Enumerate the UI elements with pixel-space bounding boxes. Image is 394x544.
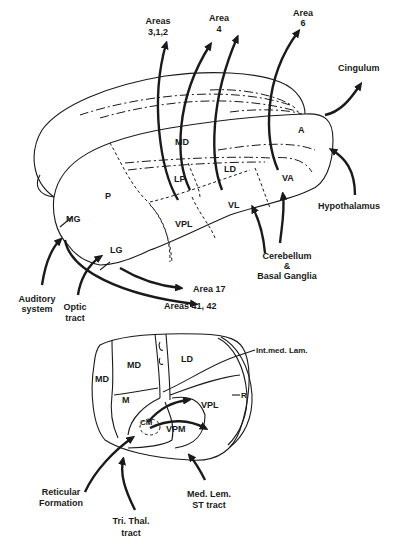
label-auditory-l2: system (21, 304, 52, 314)
nucleus-ld: LD (224, 164, 236, 174)
label-cerebellum-l2: & (284, 261, 291, 271)
nucleus-lg: LG (110, 245, 123, 255)
arrow-area-17 (120, 268, 180, 288)
label-reticular-l1: Reticular (42, 487, 81, 497)
cs-nucleus-cm: CM (140, 418, 153, 427)
arrow-tri-thal (122, 460, 135, 510)
nucleus-vpl: VPL (175, 219, 193, 229)
label-cerebellum-l3: Basal Ganglia (257, 271, 318, 281)
nucleus-va: VA (282, 173, 294, 183)
arrow-area-4 (180, 45, 210, 190)
cross-section-labels: MD MD LD M VPL CM VPM Int.med. Lam. R Re… (39, 346, 308, 538)
thalamus-diagram: MD A LP LD VA P VL VPL MG LG Areas 3,1,2… (0, 0, 394, 544)
cs-nucleus-md-1: MD (127, 360, 141, 370)
label-tri-thal-l2: tract (121, 528, 141, 538)
cs-nucleus-vpm: VPM (166, 424, 186, 434)
cs-nucleus-md-2: MD (95, 374, 109, 384)
label-cerebellum-l1: Cerebellum (262, 251, 311, 261)
label-tri-thal-l1: Tri. Thal. (112, 516, 149, 526)
label-med-lem-l2: ST tract (192, 500, 226, 510)
arrow-areas-4142 (65, 240, 195, 304)
nucleus-vl: VL (228, 200, 240, 210)
cs-nucleus-ld: LD (181, 354, 193, 364)
label-areas-312-l2: 3,1,2 (148, 27, 168, 37)
label-area-6-l2: 6 (300, 18, 305, 28)
label-area-6-l1: Area (293, 8, 314, 18)
label-reticular-l2: Formation (39, 498, 83, 508)
label-int-med-lam: Int.med. Lam. (256, 346, 308, 355)
label-hypothalamus: Hypothalamus (318, 201, 380, 211)
label-area-4-l1: Area (209, 13, 230, 23)
arrow-auditory (42, 240, 60, 285)
label-cingulum: Cingulum (338, 63, 380, 73)
label-area-4-l2: 4 (216, 24, 221, 34)
nucleus-mg: MG (66, 214, 81, 224)
upper-target-labels: Areas 3,1,2 Area 4 Area 6 Cingulum Area … (19, 8, 381, 323)
label-r: R (241, 391, 247, 400)
arrow-hypothalamus (332, 150, 355, 195)
label-med-lem-l1: Med. Lem. (187, 489, 231, 499)
nucleus-a: A (298, 125, 305, 135)
arrow-cerebellum (280, 195, 284, 243)
cs-nucleus-vpl: VPL (201, 400, 219, 410)
nucleus-p: P (105, 191, 111, 201)
label-auditory-l1: Auditory (19, 294, 56, 304)
nucleus-md: MD (175, 137, 189, 147)
arrow-basal-ganglia (253, 208, 265, 253)
label-areas-4142: Areas 41, 42 (164, 301, 217, 311)
label-areas-312-l1: Areas (145, 16, 170, 26)
thalamus-cross-section (92, 334, 255, 460)
arrow-cingulum (325, 85, 360, 115)
label-area-17: Area 17 (193, 284, 226, 294)
label-optic-l1: Optic (63, 302, 86, 312)
cs-nucleus-m: M (122, 395, 130, 405)
label-optic-l2: tract (65, 313, 85, 323)
